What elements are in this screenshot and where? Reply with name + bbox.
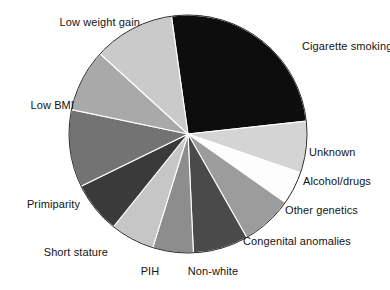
slice-label-unknown: Unknown: [309, 146, 379, 158]
slice-label-non-white: Non-white: [180, 265, 246, 277]
pie-slice-group: [69, 15, 307, 253]
slice-label-primiparity: Primiparity: [4, 198, 80, 210]
slice-label-low-bmi: Low BMI: [8, 99, 74, 111]
pie-chart-figure: Low weight gain Cigarette smoking Low BM…: [0, 0, 390, 290]
slice-label-other-genetics: Other genetics: [285, 204, 377, 216]
slice-label-low-weight-gain: Low weight gain: [20, 16, 140, 28]
slice-label-congenital-anomalies: Congenital anomalies: [243, 235, 377, 247]
pie-slice: [171, 15, 306, 134]
slice-label-short-stature: Short stature: [24, 246, 108, 258]
slice-label-alcohol-drugs: Alcohol/drugs: [303, 175, 389, 187]
slice-label-pih: PIH: [135, 265, 165, 277]
slice-label-cigarette-smoking: Cigarette smoking: [302, 40, 390, 52]
